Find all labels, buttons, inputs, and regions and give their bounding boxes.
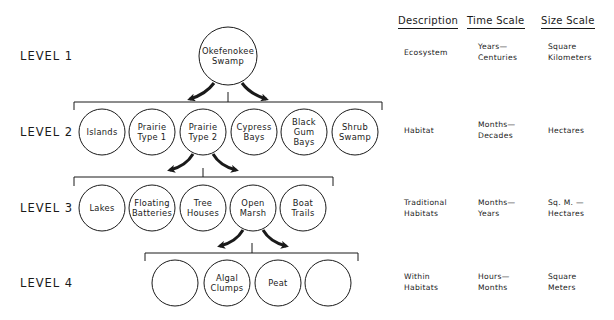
level-1-time-scale: Years— Centuries [478, 42, 517, 63]
level-2-label: LEVEL 2 [20, 125, 73, 139]
level-1-description: Ecosystem [404, 48, 448, 59]
arrow-left-icon [170, 154, 193, 170]
node-label: Shrub Swamp [332, 109, 378, 155]
level-4-label: LEVEL 4 [20, 276, 73, 290]
level-1-label: LEVEL 1 [20, 49, 73, 63]
bracket-level-3 [74, 168, 333, 186]
level-3-size-scale: Sq. M. — Hectares [548, 198, 584, 219]
node-label: Cypress Bays [231, 109, 277, 155]
arrow-right-icon [263, 230, 286, 246]
level-2-size-scale: Hectares [548, 126, 584, 137]
level-2-description: Habitat [404, 126, 434, 137]
level-4-size-scale: Square Meters [548, 272, 577, 293]
node-label: Boat Trails [280, 185, 326, 231]
arrow-left-icon [190, 83, 214, 99]
node-label: Islands [79, 109, 125, 155]
node-label: Algal Clumps [204, 260, 250, 306]
size-scale-header: Size Scale [541, 15, 595, 29]
arrow-right-icon [213, 154, 236, 170]
bracket-level-4 [145, 243, 358, 261]
bracket-level-2 [74, 92, 382, 110]
node-label [152, 260, 198, 306]
level-3-label: LEVEL 3 [20, 201, 73, 215]
node-label: Prairie Type 1 [129, 109, 175, 155]
level-1-size-scale: Square Kilometers [548, 42, 592, 63]
node-label: Lakes [79, 185, 125, 231]
level-3-description: Traditional Habitats [404, 198, 447, 219]
node-label: Prairie Type 2 [180, 109, 226, 155]
node-label: Floating Batteries [129, 185, 175, 231]
level-2-time-scale: Months— Decades [478, 120, 515, 141]
description-header: Description [398, 15, 458, 29]
node-label [305, 260, 351, 306]
time-scale-header: Time Scale [467, 15, 525, 29]
node-label: Black Gum Bays [281, 109, 327, 155]
arrow-right-icon [242, 83, 266, 99]
node-label: Okefenokee Swamp [199, 27, 257, 85]
node-label: Peat [255, 260, 301, 306]
arrow-left-icon [220, 230, 243, 246]
node-label: Open Marsh [230, 185, 276, 231]
level-3-time-scale: Months— Years [478, 198, 515, 219]
node-label: Tree Houses [180, 185, 226, 231]
level-4-time-scale: Hours— Months [478, 272, 510, 293]
level-4-description: Within Habitats [404, 272, 438, 293]
